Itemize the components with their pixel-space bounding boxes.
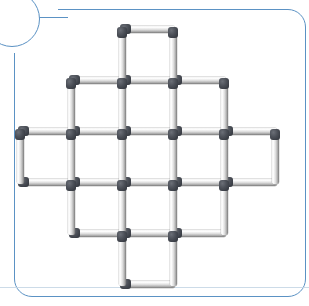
matchstick-horizontal[interactable] [223, 128, 277, 135]
match-head-icon [168, 231, 178, 242]
matchstick-vertical[interactable] [272, 130, 279, 184]
matchstick-horizontal[interactable] [121, 281, 175, 288]
matchstick-vertical[interactable] [119, 79, 126, 133]
matchstick-puzzle-figure [0, 0, 309, 306]
matchstick-horizontal[interactable] [223, 179, 277, 186]
screenshot-stage [0, 0, 309, 306]
match-head-icon [66, 129, 76, 140]
match-head-icon [219, 78, 229, 89]
matchstick-horizontal[interactable] [70, 128, 124, 135]
match-head-icon [117, 129, 127, 140]
matchstick-vertical[interactable] [170, 181, 177, 235]
matchstick-vertical[interactable] [170, 79, 177, 133]
matchstick-horizontal[interactable] [121, 128, 175, 135]
matchstick-horizontal[interactable] [121, 26, 175, 33]
matchstick-vertical[interactable] [221, 181, 228, 235]
matchstick-horizontal[interactable] [70, 77, 124, 84]
matchstick-horizontal[interactable] [70, 230, 124, 237]
matchstick-vertical[interactable] [68, 181, 75, 235]
match-head-icon [66, 180, 76, 191]
matchstick-vertical[interactable] [170, 130, 177, 184]
matchstick-horizontal[interactable] [19, 179, 73, 186]
matchstick-vertical[interactable] [119, 181, 126, 235]
match-head-icon [66, 78, 76, 89]
matchstick-horizontal[interactable] [172, 77, 226, 84]
match-head-icon [117, 27, 127, 38]
match-head-icon [168, 180, 178, 191]
matchstick-vertical[interactable] [119, 130, 126, 184]
matchstick-vertical[interactable] [68, 130, 75, 184]
match-head-icon [117, 180, 127, 191]
match-head-icon [270, 129, 280, 140]
match-head-icon [15, 129, 25, 140]
matchstick-vertical[interactable] [17, 130, 24, 184]
matchstick-vertical[interactable] [170, 232, 177, 286]
matchstick-horizontal[interactable] [172, 230, 226, 237]
match-head-icon [117, 231, 127, 242]
match-head-icon [117, 78, 127, 89]
matchstick-horizontal[interactable] [121, 77, 175, 84]
matchstick-horizontal[interactable] [172, 128, 226, 135]
matchstick-vertical[interactable] [221, 130, 228, 184]
matchstick-horizontal[interactable] [19, 128, 73, 135]
match-head-icon [168, 78, 178, 89]
badge-connector-line [38, 17, 68, 18]
matchstick-vertical[interactable] [119, 232, 126, 286]
matchstick-vertical[interactable] [170, 28, 177, 82]
matchstick-vertical[interactable] [119, 28, 126, 82]
match-head-icon [168, 129, 178, 140]
matchstick-vertical[interactable] [68, 79, 75, 133]
match-head-icon [219, 129, 229, 140]
matchstick-horizontal[interactable] [121, 230, 175, 237]
matchstick-horizontal[interactable] [172, 179, 226, 186]
match-head-icon [219, 180, 229, 191]
matchstick-horizontal[interactable] [70, 179, 124, 186]
matchstick-vertical[interactable] [221, 79, 228, 133]
match-head-icon [168, 27, 178, 38]
matchstick-horizontal[interactable] [121, 179, 175, 186]
